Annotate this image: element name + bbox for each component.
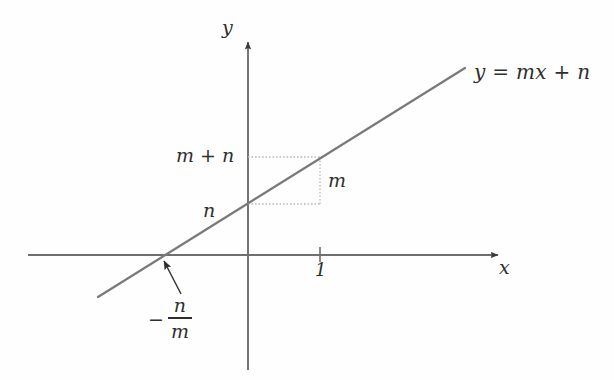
x-intercept-pointer-arrow [164,261,181,294]
y-value-at-x-one-label: m + n [176,146,234,165]
fraction-denominator: m [168,319,192,341]
x-tick-label-1: 1 [315,261,326,279]
function-line [98,68,465,297]
y-intercept-label: n [203,201,215,220]
minus-sign: − [148,310,164,329]
linear-function-diagram: y x y = mx + n m + n n m 1 − n m [0,0,614,380]
y-axis-label: y [222,18,233,37]
x-intercept-label: − n m [148,296,192,341]
fraction-numerator: n [171,296,189,317]
x-axis-label: x [499,258,510,277]
diagram-canvas [0,0,614,380]
slope-rise-label: m [328,171,346,190]
equation-label: y = mx + n [474,62,590,82]
fraction: n m [168,296,192,341]
